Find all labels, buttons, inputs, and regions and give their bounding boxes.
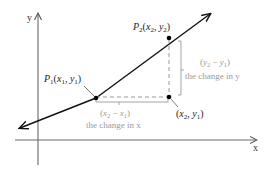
point-p2: [167, 36, 172, 41]
rise-description: the change in y: [185, 71, 240, 81]
run-description: the change in x: [86, 120, 141, 130]
run-bracket: [96, 99, 168, 105]
y-axis-label: y: [27, 12, 32, 23]
line: [20, 98, 96, 128]
slope-diagram: y x P1(x1, y1) P2(x2, y2) (x2, y1) (x2 −…: [0, 0, 270, 172]
p1-label: P1(x1, y1): [43, 73, 81, 86]
run-expression: (x2 − x1): [100, 108, 130, 119]
point-p1: [94, 96, 99, 101]
corner-label: (x2, y1): [176, 108, 204, 121]
x-axis-label: x: [253, 142, 258, 153]
p1-leader: [84, 86, 94, 96]
p2-label: P2(x2, y2): [132, 21, 170, 34]
rise-bracket: [178, 41, 184, 95]
point-corner: [167, 95, 172, 100]
corner-leader: [171, 99, 178, 107]
rise-expression: (y2 − y1): [200, 57, 230, 68]
